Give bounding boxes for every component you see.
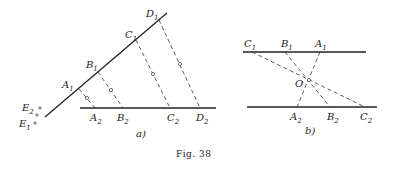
label-a1: A1	[314, 38, 327, 52]
midpoint-marker	[151, 72, 154, 75]
label-e1: E1	[18, 118, 31, 132]
label-e2: E2	[21, 102, 34, 116]
label-a2: A2	[89, 112, 102, 126]
label-b1: B1	[280, 38, 293, 52]
panel-b: C1 B1 A1 O A2 B2 C2 b)	[243, 38, 377, 136]
panel-a-label: a)	[136, 128, 146, 139]
label-b2: B2	[116, 112, 129, 126]
panel-b-label: b)	[305, 125, 315, 136]
e1-marker	[34, 122, 36, 124]
label-o: O	[295, 78, 303, 89]
label-a2: A2	[289, 111, 302, 125]
center-o-marker	[307, 78, 310, 81]
label-b1: B1	[85, 59, 98, 73]
label-b2: B2	[326, 111, 339, 125]
figure-caption: Fig. 38	[176, 149, 212, 159]
e2-marker	[39, 107, 41, 109]
e-marker	[36, 114, 38, 116]
panel-a: A1 B1 C1 D1 A2 B2 C2 D2 E2 E1 a)	[18, 8, 216, 139]
label-a1: A1	[61, 79, 74, 93]
figure-38: A1 B1 C1 D1 A2 B2 C2 D2 E2 E1 a) C1 B1 A…	[0, 0, 397, 169]
label-d2: D2	[195, 112, 209, 126]
label-c2: C2	[360, 111, 373, 125]
midpoint-marker	[109, 88, 112, 91]
midpoint-marker	[178, 62, 181, 65]
label-c1: C1	[244, 38, 256, 52]
label-c2: C2	[167, 112, 180, 126]
midpoint-marker	[85, 96, 88, 99]
label-c1: C1	[125, 29, 137, 43]
label-d1: D1	[145, 8, 159, 22]
